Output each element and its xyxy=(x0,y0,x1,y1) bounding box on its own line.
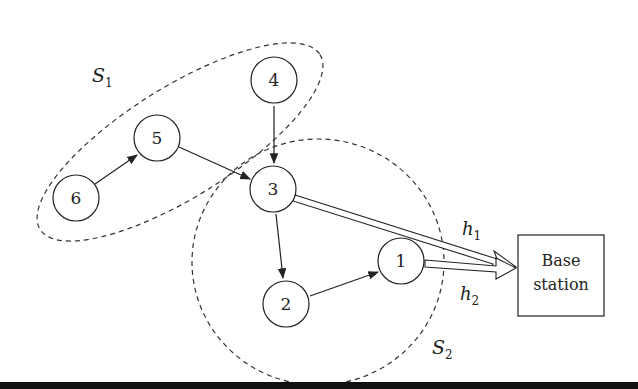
uplink-h1-label: h1 xyxy=(462,218,481,243)
bottom-border-bar xyxy=(0,382,638,389)
node-4-label: 4 xyxy=(269,70,280,90)
edge-3-2 xyxy=(276,214,283,278)
uplink-h2-arrow xyxy=(425,258,516,279)
cluster-s1-label: S1 xyxy=(92,64,113,90)
edge-6-5 xyxy=(95,155,137,184)
base-station-label-line1: Base xyxy=(542,251,581,270)
network-diagram: 1 2 3 4 5 6 Base station S1 S2 h1 h2 xyxy=(0,0,638,389)
edge-2-1 xyxy=(310,272,378,296)
cluster-s2-label: S2 xyxy=(432,336,453,362)
node-1-label: 1 xyxy=(396,251,407,271)
node-6-label: 6 xyxy=(71,188,82,208)
node-3-label: 3 xyxy=(268,179,279,199)
uplink-h2-label: h2 xyxy=(460,283,479,308)
node-2-label: 2 xyxy=(281,294,292,314)
edge-5-3 xyxy=(179,147,250,179)
base-station-label-line2: station xyxy=(533,275,589,294)
node-5-label: 5 xyxy=(152,128,163,148)
